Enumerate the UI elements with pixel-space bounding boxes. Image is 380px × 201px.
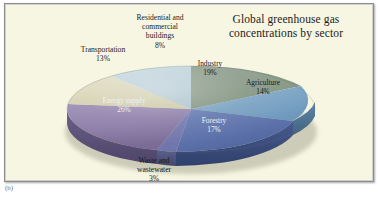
- label-energy-supply-value: 26%: [83, 105, 165, 114]
- chart-title-line1: Global greenhouse gas: [210, 12, 362, 26]
- chart-frame: Global greenhouse gas concentrations by …: [4, 3, 374, 182]
- figure-container: Global greenhouse gas concentrations by …: [0, 0, 380, 201]
- label-forestry-line1: Forestry: [183, 116, 245, 125]
- label-industry-line1: Industry: [181, 59, 239, 68]
- label-waste-value: 3%: [115, 174, 193, 183]
- label-transportation-value: 13%: [63, 54, 143, 63]
- pie-chart-plot: Global greenhouse gas concentrations by …: [5, 4, 373, 181]
- label-agriculture-line1: Agriculture: [227, 78, 299, 87]
- label-waste: Waste and wastewater 3%: [115, 156, 193, 184]
- label-forestry: Forestry 17%: [183, 116, 245, 134]
- label-industry: Industry 19%: [181, 59, 239, 77]
- label-agriculture-value: 14%: [227, 87, 299, 96]
- label-energy-supply-line1: Energy supply: [83, 96, 165, 105]
- label-transportation-line1: Transportation: [63, 45, 143, 54]
- label-forestry-value: 17%: [183, 125, 245, 134]
- label-transportation: Transportation 13%: [63, 45, 143, 63]
- figure-caption: (b): [5, 184, 13, 192]
- label-energy-supply: Energy supply 26%: [83, 96, 165, 114]
- label-agriculture: Agriculture 14%: [227, 78, 299, 96]
- chart-title-line2: concentrations by sector: [210, 26, 362, 40]
- label-residential-line3: buildings: [123, 31, 197, 40]
- label-waste-line2: wastewater: [115, 165, 193, 174]
- label-residential-line1: Residential and: [123, 13, 197, 22]
- label-residential-line2: commercial: [123, 22, 197, 31]
- label-waste-line1: Waste and: [115, 156, 193, 165]
- chart-title: Global greenhouse gas concentrations by …: [210, 12, 362, 40]
- label-industry-value: 19%: [181, 68, 239, 77]
